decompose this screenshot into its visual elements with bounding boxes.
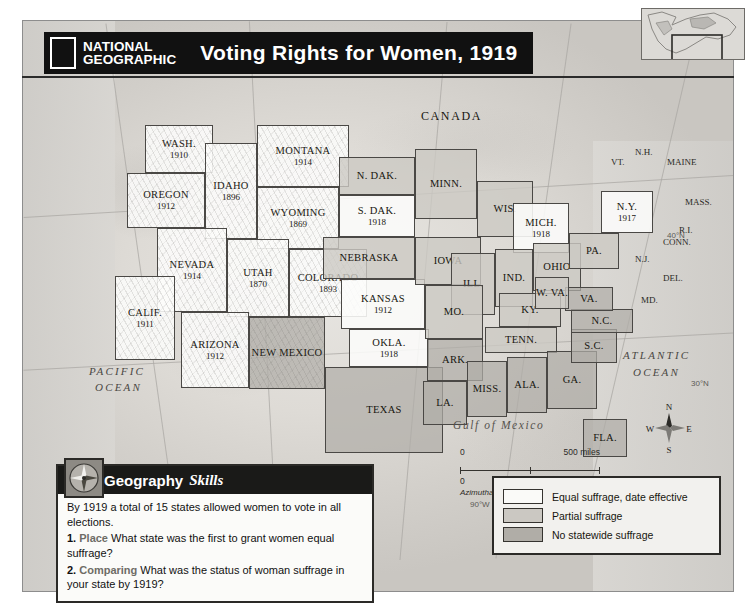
state-year-label: 1918 [532,229,550,240]
scale-km-zero: 0 [460,476,465,486]
geo-question-1: 1. Place What state was the first to gra… [67,531,364,560]
legend-swatch [503,489,543,504]
state-mo: MO. [425,285,483,339]
geography-skills-body: By 1919 a total of 15 states allowed wom… [58,494,372,601]
state-name-label: UTAH [243,267,273,278]
state-name-label: N. DAK. [357,170,397,181]
geography-skills-box: Geography Skills By 1919 a total of 15 s… [56,464,374,603]
state-name-label: IDAHO [213,180,248,191]
compass-badge-icon [64,458,104,498]
ng-logo-line1: NATIONAL [83,40,176,54]
map-page: WASH.1910OREGON1912IDAHO1896MONTANA1914W… [0,0,753,612]
state-name-label: TEXAS [366,404,401,415]
small-state-label: VT. [611,157,625,167]
state-name-label: NEBRASKA [340,252,399,263]
state-name-label: NEVADA [170,259,215,270]
state-name-label: LA. [436,397,454,408]
state-year-label: 1912 [374,305,392,316]
legend-label: Partial suffrage [552,510,622,522]
state-year-label: 1870 [249,279,267,290]
national-geographic-logo: NATIONAL GEOGRAPHIC [44,32,186,74]
state-name-label: N.Y. [617,201,637,212]
state-name-label: OKLA. [372,337,405,348]
compass-rose-icon: N S W E [641,399,697,455]
state-name-label: ALA. [514,379,539,390]
state-name-label: TENN. [505,334,537,345]
state-ny: N.Y.1917 [601,191,653,233]
country-label-canada: CANADA [421,109,482,124]
small-state-label: MD. [641,295,658,305]
state-minn: MINN. [415,149,477,219]
ocean-label: OCEAN [633,366,680,378]
map-legend: Equal suffrage, date effectivePartial su… [492,476,721,555]
state-sdak: S. DAK.1918 [339,195,415,237]
legend-row-0: Equal suffrage, date effective [503,489,710,504]
state-nebr: NEBRASKA [323,237,415,279]
compass-s: S [666,445,671,455]
state-name-label: GA. [563,374,582,385]
state-ndak: N. DAK. [339,157,415,195]
state-calif: CALIF.1911 [115,276,175,360]
geo-question-number: 1. [67,532,79,544]
state-name-label: OREGON [143,189,189,200]
graticule-label: 40°N [667,231,685,240]
geo-question-type: Comparing [79,564,140,576]
state-year-label: 1912 [157,201,175,212]
small-state-label: N.J. [635,254,650,264]
state-year-label: 1869 [289,219,307,230]
state-wva: W. VA. [535,277,569,309]
geography-skills-header: Geography Skills [58,466,372,494]
geo-header-italic: Skills [189,472,223,489]
title-rule [22,76,734,78]
map-title-bar: NATIONAL GEOGRAPHIC Voting Rights for Wo… [44,32,533,74]
state-name-label: WASH. [162,138,196,149]
state-name-label: CALIF. [128,307,162,318]
state-name-label: VA. [580,293,597,304]
state-idaho: IDAHO1896 [205,143,257,239]
state-mont: MONTANA1914 [257,125,349,187]
compass-e: E [686,424,692,434]
ocean-label: PACIFIC [89,365,145,377]
locator-inset-map [641,8,745,60]
state-name-label: S.C. [584,340,603,351]
small-state-label: DEL. [663,273,683,283]
state-ariz: ARIZONA1912 [181,312,249,388]
geo-header-bold: Geography [104,472,183,489]
state-name-label: N.C. [591,315,612,326]
state-va: VA. [565,287,613,311]
state-name-label: FLA. [593,432,617,443]
state-year-label: 1893 [319,284,337,295]
state-year-label: 1896 [222,192,240,203]
legend-swatch [503,527,543,542]
small-state-label: MAINE [667,157,697,167]
state-year-label: 1912 [206,351,224,362]
state-miss: MISS. [467,361,507,417]
compass-w: W [646,424,655,434]
legend-label: No statewide suffrage [552,529,653,541]
compass-n: N [666,402,673,412]
legend-row-1: Partial suffrage [503,508,710,523]
state-year-label: 1911 [136,319,154,330]
state-utah: UTAH1870 [227,239,289,317]
state-name-label: NEW MEXICO [252,347,323,358]
ocean-label: ATLANTIC [623,349,690,361]
state-okla: OKLA.1918 [349,329,429,367]
state-name-label: PA. [586,245,602,256]
small-state-label: N.H. [635,147,653,157]
graticule-label: 30°N [691,379,709,388]
legend-swatch [503,508,543,523]
state-name-label: W. VA. [536,287,568,298]
state-name-label: MO. [444,306,464,317]
geo-question-number: 2. [67,564,79,576]
legend-row-2: No statewide suffrage [503,527,710,542]
state-nmex: NEW MEXICO [249,317,325,389]
state-year-label: 1918 [368,217,386,228]
state-name-label: KANSAS [361,293,405,304]
state-year-label: 1918 [380,349,398,360]
ocean-label: OCEAN [95,381,142,393]
state-name-label: ARK. [442,354,468,365]
state-wash: WASH.1910 [145,125,213,173]
geo-question-type: Place [79,532,111,544]
state-name-label: MICH. [525,217,557,228]
small-state-label: MASS. [685,197,712,207]
